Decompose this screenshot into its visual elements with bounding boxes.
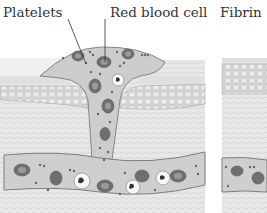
- wound-illustration: [0, 0, 267, 213]
- wound-panel: [0, 19, 205, 213]
- fibrin-panel: [222, 58, 267, 213]
